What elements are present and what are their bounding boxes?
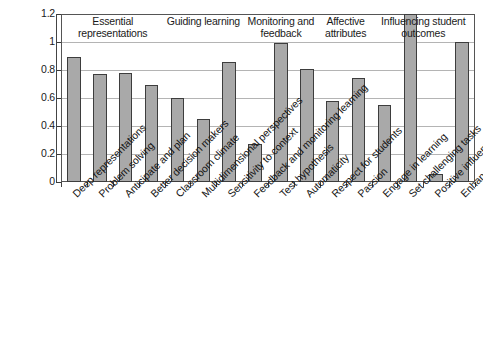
y-axis-spine [56,14,57,182]
group-header-label: Monitoring and feedback [242,16,320,42]
y-axis-tick-label: 1 [13,35,55,47]
y-axis-tick-label: 0 [13,175,55,187]
bar [67,57,80,182]
y-axis-tick-label: 0.2 [13,147,55,159]
x-axis-tick-mark [61,182,62,187]
y-axis-tick-label: 1.2 [13,7,55,19]
group-header-label: Affective attributes [320,16,372,42]
y-axis-tick-label: 0.4 [13,119,55,131]
y-axis-tick-label: 0.6 [13,91,55,103]
y-axis-tick-label: 0.8 [13,63,55,75]
group-header-label: Influencing student outcomes [372,16,476,42]
bar-chart: 00.20.40.60.811.2 Essential representati… [0,0,483,337]
group-header-label: Essential representations [61,16,165,42]
group-header-label: Guiding learning [165,16,243,42]
